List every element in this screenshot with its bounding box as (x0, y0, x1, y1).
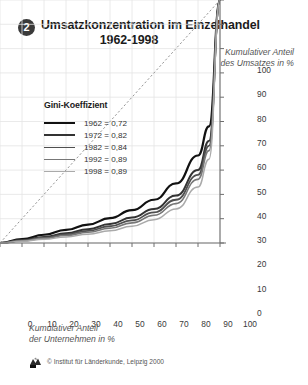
x-tick-label-80: 80 (201, 319, 210, 329)
y-tick-label-0: 0 (257, 308, 262, 318)
x-tick-label-90: 90 (223, 319, 232, 329)
legend: Gini-Koeffizient 1962 = 0,721972 = 0,821… (44, 100, 127, 177)
x-axis-caption: Kumulativer Anteil der Unternehmen in % (29, 323, 115, 344)
legend-item-label: 1992 = 0,89 (84, 155, 127, 164)
legend-swatch-icon (44, 171, 75, 172)
footer: © Institut für Länderkunde, Leipzig 2000 (29, 355, 164, 368)
copyright-text: © Institut für Länderkunde, Leipzig 2000 (47, 358, 164, 365)
y-tick-label-30: 30 (257, 235, 266, 245)
x-tick-label-100: 100 (243, 319, 257, 329)
y-tick-label-100: 100 (257, 65, 271, 75)
y-tick-label-60: 60 (257, 162, 266, 172)
legend-item: 1992 = 0,89 (44, 153, 127, 165)
ifl-logo-icon (29, 355, 42, 368)
y-tick-label-40: 40 (257, 211, 266, 221)
legend-item: 1962 = 0,72 (44, 117, 127, 129)
legend-item-label: 1982 = 0,84 (84, 143, 127, 152)
legend-item-label: 1962 = 0,72 (84, 119, 127, 128)
legend-item-label: 1998 = 0,89 (84, 167, 127, 176)
legend-swatch-icon (44, 159, 75, 160)
legend-swatch-icon (44, 147, 75, 148)
lorenz-curve-chart (0, 0, 278, 315)
y-tick-label-50: 50 (257, 187, 266, 197)
legend-item: 1998 = 0,89 (44, 165, 127, 177)
legend-item-label: 1972 = 0,82 (84, 131, 127, 140)
legend-item: 1982 = 0,84 (44, 141, 127, 153)
x-tick-label-60: 60 (157, 319, 166, 329)
legend-swatch-icon (44, 122, 75, 124)
x-axis-caption-line1: Kumulativer Anteil (29, 323, 115, 334)
x-tick-label-50: 50 (135, 319, 144, 329)
x-axis-caption-line2: der Unternehmen in % (29, 334, 115, 345)
chart-page: 2 Umsatzkonzentration im Einzelhandel 19… (0, 0, 308, 385)
y-tick-label-80: 80 (257, 114, 266, 124)
y-tick-label-20: 20 (257, 259, 266, 269)
legend-swatch-icon (44, 134, 75, 136)
legend-item: 1972 = 0,82 (44, 129, 127, 141)
y-tick-label-90: 90 (257, 89, 266, 99)
x-tick-label-70: 70 (179, 319, 188, 329)
y-tick-label-70: 70 (257, 138, 266, 148)
legend-title: Gini-Koeffizient (44, 100, 127, 110)
y-tick-label-10: 10 (257, 284, 266, 294)
